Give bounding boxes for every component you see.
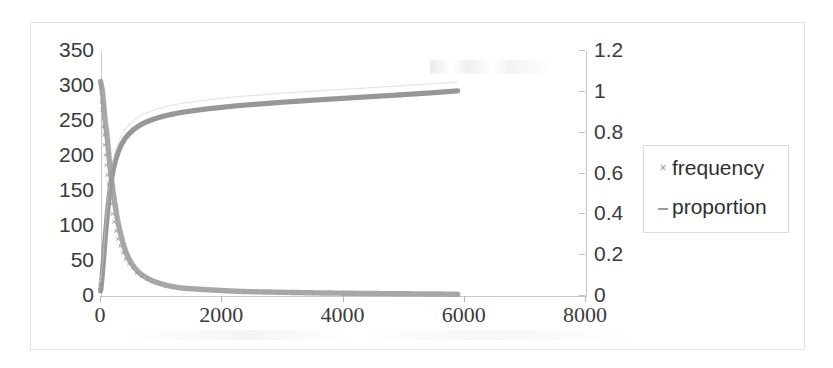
legend-label-proportion: proportion [672, 194, 767, 220]
x-axis-tick-label: 6000 [442, 304, 486, 326]
frequency-marker-x-icon: × [107, 189, 112, 199]
x-axis-tick-label: 2000 [199, 304, 243, 326]
legend-marker-dash-icon: – [654, 194, 672, 220]
legend-marker-x-icon: × [654, 155, 672, 181]
plot-area: ×××××××××××××××××××××××××××× [100, 50, 585, 295]
frequency-marker-x-icon: × [106, 179, 111, 189]
frequency-marker-x-icon: × [103, 150, 108, 160]
x-axis-tick-label: 4000 [321, 304, 365, 326]
frequency-marker-x-icon: × [104, 160, 109, 170]
frequency-marker-x-icon: × [102, 140, 107, 150]
frequency-marker-x-icon: × [108, 199, 113, 209]
frequency-marker-x-icon: × [145, 274, 150, 284]
proportion-curve-ghost [101, 82, 458, 282]
frequency-marker-x-icon: × [105, 170, 110, 180]
frequency-marker-x-icon: × [101, 130, 106, 140]
legend-item-frequency[interactable]: × frequency [654, 155, 764, 181]
x-axis-tick-label: 8000 [563, 304, 607, 326]
frequency-curve [101, 82, 458, 295]
x-axis-tick-label: 0 [95, 304, 106, 326]
legend-item-proportion[interactable]: – proportion [654, 194, 767, 220]
legend-label-frequency: frequency [672, 155, 764, 181]
plot-svg: ×××××××××××××××××××××××××××× [100, 50, 585, 295]
series-frequency: ×××××××××××××××××××××××××××× [98, 77, 458, 295]
series-proportion [101, 82, 458, 291]
proportion-curve [101, 91, 458, 291]
chart-legend: × frequency – proportion [643, 145, 789, 233]
